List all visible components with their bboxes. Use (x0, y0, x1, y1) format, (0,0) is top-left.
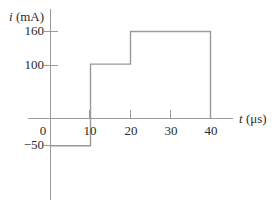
y-axis-symbol: i (9, 9, 13, 24)
y-tick-label-100: 100 (10, 58, 44, 71)
y-tick-label-neg50: −50 (6, 138, 44, 151)
x-axis-symbol: t (239, 111, 243, 126)
x-tick-label-40: 40 (201, 124, 221, 137)
x-axis-unit: (μs) (246, 111, 267, 126)
x-tick-label-10: 10 (80, 124, 100, 137)
current-waveform-figure: i (mA) t (μs) 160 100 −50 0 10 20 30 40 (0, 0, 280, 209)
x-tick-label-0: 0 (36, 124, 50, 137)
y-axis-title: i (mA) (9, 10, 44, 23)
y-tick-label-160: 160 (10, 24, 44, 37)
x-axis-title: t (μs) (239, 112, 267, 125)
x-tick-label-20: 20 (121, 124, 141, 137)
x-tick-label-30: 30 (161, 124, 181, 137)
y-axis-unit: (mA) (16, 9, 44, 24)
